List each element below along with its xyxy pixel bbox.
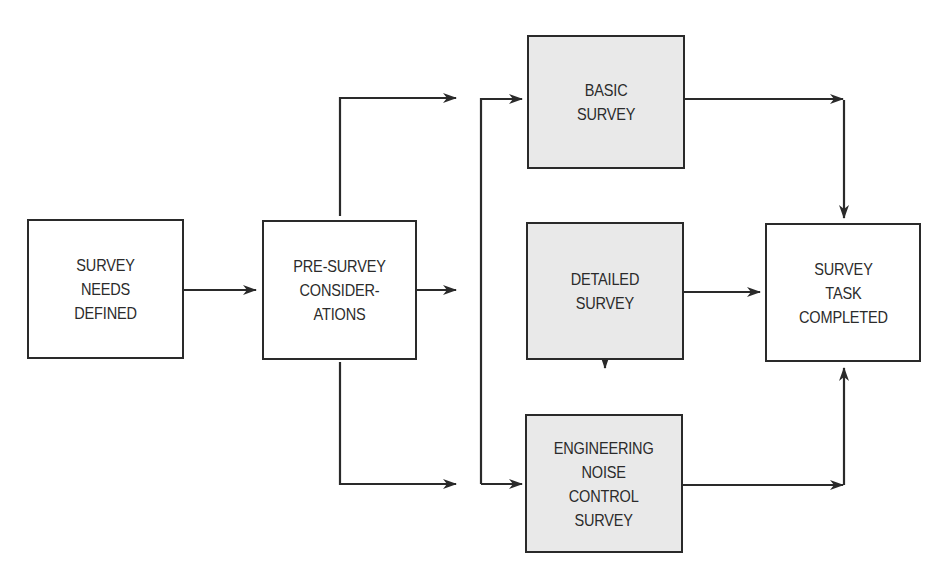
node-label-line: DETAILED [571, 267, 640, 291]
node-survey-task-completed: SURVEY TASK COMPLETED [765, 223, 921, 362]
node-label-line: SURVEY [74, 253, 137, 277]
arrow-presurvey-to-basic [340, 98, 456, 216]
arrow-loop-to-basic [481, 99, 522, 484]
survey-flowchart: SURVEY NEEDS DEFINED PRE-SURVEY CONSIDER… [0, 0, 938, 572]
node-label-line: PRE-SURVEY [293, 254, 385, 278]
node-label-line: SURVEY [799, 257, 888, 281]
node-engineering-noise-control-survey: ENGINEERING NOISE CONTROL SURVEY [525, 414, 683, 553]
node-label-line: CONTROL [554, 484, 654, 508]
node-detailed-survey: DETAILED SURVEY [526, 222, 684, 360]
node-label-line: TASK [799, 281, 888, 305]
node-basic-survey: BASIC SURVEY [527, 35, 685, 169]
node-label-line: BASIC [577, 78, 635, 102]
node-label-line: CONSIDER- [293, 278, 385, 302]
node-label-line: DEFINED [74, 301, 137, 325]
node-label-line: NEEDS [74, 277, 137, 301]
node-label-line: SURVEY [577, 102, 635, 126]
node-label-line: SURVEY [554, 508, 654, 532]
node-label-line: NOISE [554, 460, 654, 484]
node-label-line: ATIONS [293, 302, 385, 326]
node-survey-needs-defined: SURVEY NEEDS DEFINED [27, 219, 184, 359]
node-pre-survey-considerations: PRE-SURVEY CONSIDER- ATIONS [262, 220, 417, 360]
arrow-presurvey-to-engineering [340, 362, 456, 484]
node-label-line: ENGINEERING [554, 436, 654, 460]
node-label-line: COMPLETED [799, 305, 888, 329]
node-label-line: SURVEY [571, 291, 640, 315]
